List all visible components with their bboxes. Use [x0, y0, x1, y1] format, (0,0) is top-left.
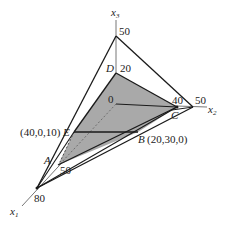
x2-tick-40: 40 [172, 94, 184, 106]
x1-axis-label: x1 [9, 205, 18, 219]
x2-tick-50: 50 [195, 94, 207, 106]
point-B-coords: (20,30,0) [147, 133, 188, 146]
point-D-label: D [105, 62, 114, 74]
origin-label: 0 [108, 93, 114, 105]
x1-tick-80: 80 [34, 192, 46, 204]
shaded-region [58, 73, 177, 165]
point-E-coords: (40,0,10) [20, 126, 61, 139]
x3-tick-20: 20 [120, 62, 132, 74]
point-C-label: C [171, 109, 179, 121]
feasible-region-diagram: x3 x2 x1 50 20 0 40 50 50 80 D C E (40,0… [0, 0, 228, 225]
x1-tick-50: 50 [60, 164, 72, 176]
vertex-80 [36, 187, 39, 190]
x2-axis-label: x2 [207, 103, 217, 117]
point-A-label: A [43, 154, 51, 166]
x3-axis-label: x3 [110, 6, 120, 20]
x3-tick-50: 50 [119, 25, 131, 37]
point-B-label: B [138, 133, 145, 145]
point-E-label: E [62, 126, 70, 138]
